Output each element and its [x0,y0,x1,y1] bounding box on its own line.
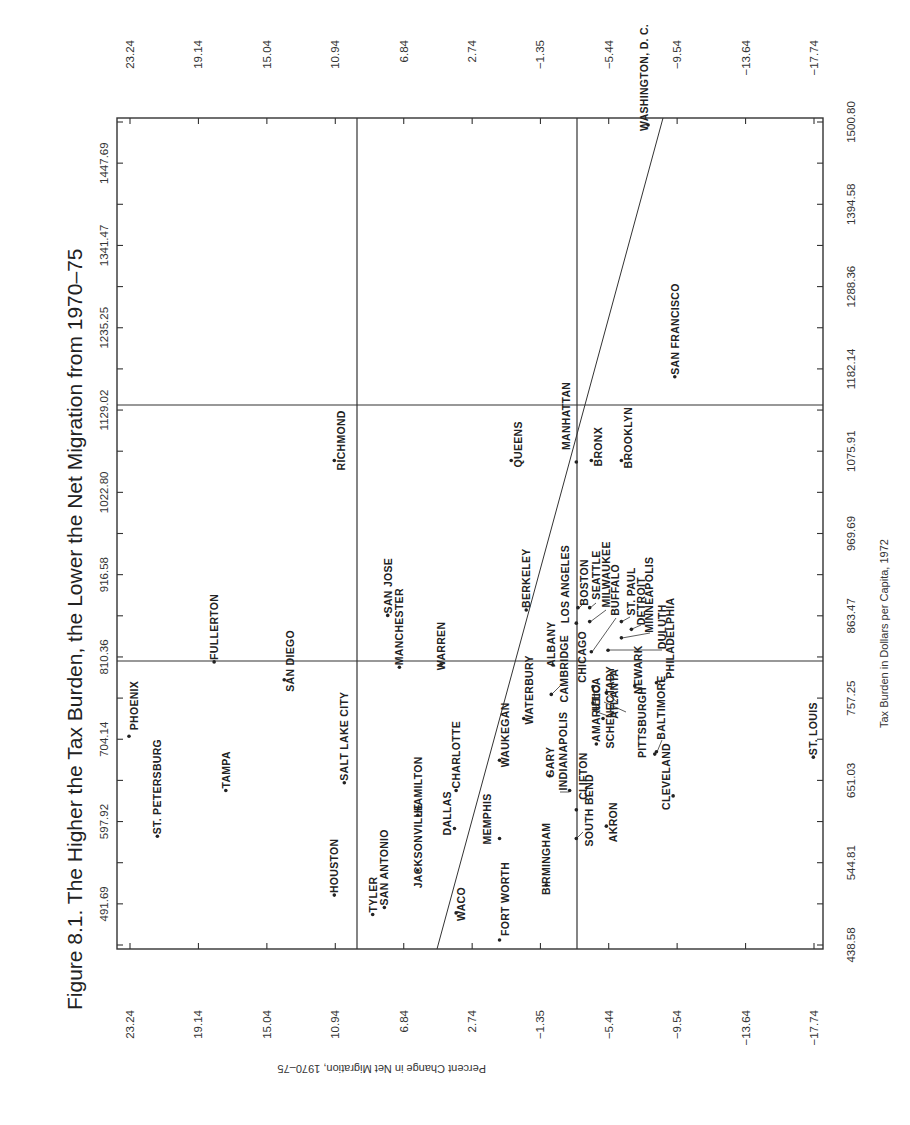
tax-tick-label: 1182.14 [845,348,857,389]
point-marker [620,636,624,640]
migration-tick-label: 15.04 [261,1009,273,1038]
tax-tick-label: 1288.36 [845,266,857,308]
point-marker [127,734,131,738]
data-point: GARY [544,747,556,778]
migration-tick-label: −5.44 [603,39,615,69]
data-point: FORT WORTH [498,862,511,942]
point-marker [655,750,659,754]
x-axis-title: Tax Burden in Dollars per Capita, 1972 [878,539,890,728]
point-label: WAUKEGAN [499,702,511,767]
point-label: RICHMOND [335,410,347,470]
point-label: BUFFALO [609,564,621,616]
data-point: WAUKEGAN [498,702,511,767]
migration-tick-labels-bottom: 23.2419.1415.0410.946.842.74−1.35−5.44−9… [124,1009,820,1045]
data-point: LOS ANGELES [559,545,578,625]
point-marker [498,837,502,841]
migration-tick-label: 2.74 [466,39,478,62]
point-label: CAMBRIDGE [558,635,570,702]
point-label: TYLER [367,876,379,912]
data-point: ST. LOUIS [807,702,819,759]
migration-tick-label: −9.54 [671,39,683,69]
data-point: PHOENIX [127,681,140,738]
point-marker [498,938,502,942]
data-point: SAN JOSE [382,558,394,617]
point-label: BRONX [592,427,604,466]
point-marker [575,808,579,812]
point-label: HOUSTON [328,839,340,893]
data-point: SAN ANTONIO [378,829,390,909]
tax-tick-label: 1500.80 [845,101,857,143]
point-label: FORT WORTH [499,862,511,936]
point-label: ST. PETERSBURG [151,739,163,834]
migration-tick-label: 10.94 [329,1009,341,1038]
point-label: SAN FRANCISCO [669,283,681,374]
migration-tick-label: −13.64 [740,39,752,75]
tax-tick-label: 863.47 [845,598,857,633]
point-label: SALT LAKE CITY [338,692,350,781]
data-point: SALT LAKE CITY [338,692,350,785]
data-point: SAN FRANCISCO [669,283,681,378]
point-label: WASHINGTON, D. C. [638,24,650,131]
migration-tick-label: 23.24 [124,39,136,68]
data-point: DALLAS [441,791,456,835]
point-label: ALBANY [545,621,557,667]
migration-tick-label: 15.04 [261,39,273,68]
migration-tick-label: −17.74 [808,1009,820,1045]
migration-tick-label: 19.14 [192,39,204,68]
data-point: RICHMOND [332,410,347,470]
data-point: HOUSTON [328,839,340,897]
point-label: AKRON [607,802,619,842]
point-label: ST. LOUIS [807,702,819,755]
point-marker [575,837,579,841]
data-point: MANHATTAN [560,382,578,464]
point-label: QUEENS [512,421,524,467]
migration-tick-label: 19.14 [192,1009,204,1038]
migration-tick-label: −1.35 [534,40,546,69]
tax-tick-label: 491.69 [98,886,110,921]
data-points: PHOENIXST. PETERSBURGTAMPAFULLERTONSAN D… [127,24,819,942]
tax-tick-label: 544.81 [845,845,857,880]
data-point: MEMPHIS [481,793,502,844]
data-point: WACO [454,887,467,921]
point-label: PHOENIX [128,681,140,730]
data-point: WATERBURY [522,655,535,724]
point-label: WARREN [435,622,447,670]
point-label: SAN JOSE [382,558,394,614]
point-label: WACO [455,887,467,921]
tax-tick-label: 597.92 [98,804,110,839]
migration-tick-label: −13.64 [740,1009,752,1045]
data-point: INDIANAPOLIS [557,712,572,793]
point-marker [655,681,659,685]
tax-tick-label: 1022.80 [98,472,110,514]
point-label: SAN DIEGO [284,630,296,692]
point-label: PITTSBURGH [636,687,648,758]
point-label: WATERBURY [523,655,535,724]
point-label: JACKSONVILLE [412,804,424,889]
tax-tick-label: 1129.02 [98,390,110,431]
point-marker [549,693,553,697]
data-point: WASHINGTON, D. C. [638,24,650,131]
axis-ticks [117,118,823,949]
point-label: MINNEAPOLIS [643,557,655,633]
point-marker [620,620,624,624]
point-label: CLIFTON [577,752,589,799]
point-label: NEWARK [632,645,644,694]
chart-title: Figure 8.1. The Higher the Tax Burden, t… [63,249,86,1011]
point-label: MANHATTAN [560,382,572,450]
data-point: ST. PETERSBURG [151,739,163,838]
tax-tick-labels-right: 438.58544.81651.03757.25863.47969.691075… [845,101,857,962]
tax-tick-label: 916.58 [98,557,110,592]
migration-tick-label: −17.74 [808,39,820,75]
point-marker [575,621,579,625]
point-label: PHILADELPHIA [664,597,676,678]
point-marker [588,620,592,624]
tax-tick-label: 438.58 [845,927,857,962]
data-point: BRONX [590,427,605,466]
point-marker [575,460,579,464]
scatter-chart: Figure 8.1. The Higher the Tax Burden, t… [0,0,910,1125]
tax-tick-label: 1235.25 [98,307,110,349]
point-label: CHARLOTTE [450,721,462,788]
point-label: GARY [544,747,556,778]
point-label: DALLAS [441,791,453,835]
data-point: PITTSBURGH [636,687,657,758]
